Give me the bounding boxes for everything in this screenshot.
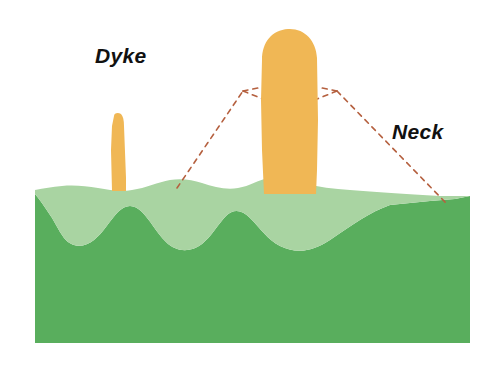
dyke-label: Dyke (95, 44, 146, 68)
crater-left-inner-dashed-line (243, 88, 258, 91)
dyke-intrusion-column (111, 113, 126, 191)
cone-right-flank-dashed-line (337, 91, 446, 203)
diagram-canvas: Dyke Neck (0, 0, 488, 371)
crater-right-rim-dashed-line (317, 91, 337, 99)
cone-left-flank-dashed-line (177, 91, 243, 188)
crater-left-rim-dashed-line (243, 91, 263, 99)
geological-cross-section-svg (0, 0, 488, 371)
neck-label: Neck (392, 120, 443, 144)
crater-right-inner-dashed-line (322, 88, 337, 91)
neck-intrusion-column (261, 29, 318, 194)
